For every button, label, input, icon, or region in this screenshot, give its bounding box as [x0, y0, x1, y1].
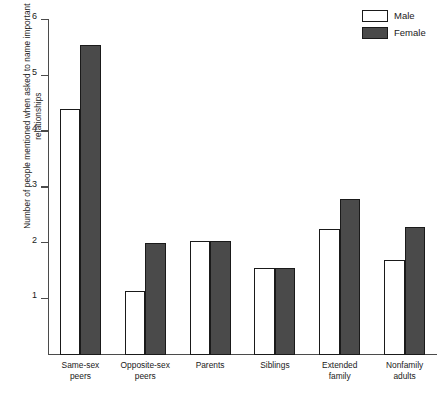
bar-male — [60, 109, 81, 355]
bar-female — [210, 241, 231, 355]
x-axis-category-label: Parents — [178, 360, 243, 371]
bar-female — [80, 45, 101, 355]
bar-female — [275, 268, 296, 355]
x-axis-category-label: Siblings — [243, 360, 308, 371]
bar-male — [190, 241, 211, 355]
bar-female — [340, 199, 361, 355]
bar-male — [384, 260, 405, 355]
plot-area: 123456 Same-sex peersOpposite-sex peersP… — [48, 20, 437, 355]
legend-label-male: Male — [394, 11, 415, 21]
x-axis-category-label: Nonfamily adults — [372, 360, 437, 382]
y-axis-tick-label: 6 — [32, 12, 37, 21]
bar-male — [319, 229, 340, 355]
x-axis-category-label: Opposite-sex peers — [113, 360, 178, 382]
y-axis-title: Number of people mentioned when asked to… — [22, 0, 44, 241]
bar-male — [254, 268, 275, 355]
bar-chart: Male Female Number of people mentioned w… — [0, 0, 439, 395]
y-axis-tick-label: 3 — [32, 180, 37, 189]
bar-female — [405, 227, 426, 355]
y-axis-tick-label: 1 — [32, 291, 37, 300]
x-axis-category-label: Extended family — [307, 360, 372, 382]
bar-group-container — [48, 20, 437, 355]
x-axis-category-label: Same-sex peers — [48, 360, 113, 382]
y-axis-tick-label: 5 — [32, 68, 37, 77]
y-axis-tick-label: 4 — [32, 124, 37, 133]
y-axis-tick-label: 2 — [32, 236, 37, 245]
bar-male — [125, 291, 146, 355]
bar-female — [145, 243, 166, 355]
